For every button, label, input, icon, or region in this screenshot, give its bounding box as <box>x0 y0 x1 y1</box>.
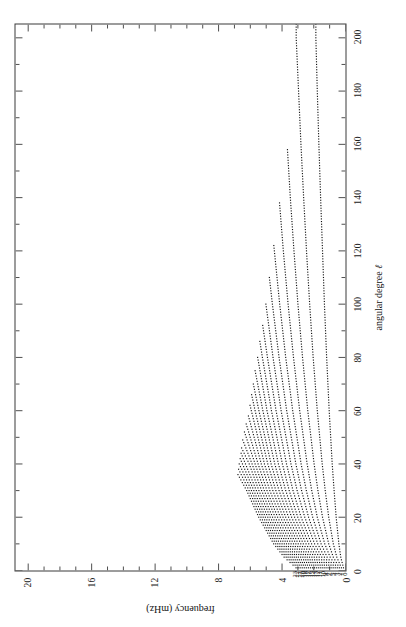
x-tick-label: 60 <box>352 406 362 416</box>
x-tick-label: 160 <box>352 136 362 151</box>
x-tick-label: 0 <box>352 569 362 574</box>
x-tick-label: 80 <box>352 352 362 362</box>
x-tick-label: 180 <box>352 82 362 97</box>
ridge-diagram-figure: 020406080100120140160180200 048121620 01… <box>0 0 406 627</box>
x-tick-label: 200 <box>352 29 362 44</box>
y-tick-label: 4 <box>277 577 287 597</box>
rotated-figure-container: 020406080100120140160180200 048121620 01… <box>0 0 406 627</box>
x-axis-title: angular degree ℓ <box>372 264 383 330</box>
plot-frame <box>14 23 346 571</box>
ridge-label: 23 <box>291 571 298 577</box>
y-tick-label: 20 <box>22 577 32 597</box>
x-tick-label: 40 <box>352 459 362 469</box>
x-tick-label: 120 <box>352 243 362 258</box>
ridge-curves <box>15 24 345 570</box>
x-tick-label: 140 <box>352 189 362 204</box>
x-axis-title-text: angular degree <box>372 271 383 330</box>
x-axis-title-symbol: ℓ <box>372 264 383 268</box>
figure-page: 020406080100120140160180200 048121620 01… <box>0 0 406 627</box>
x-tick-label: 20 <box>352 513 362 523</box>
y-axis-title: frequency (mHz) <box>146 604 215 615</box>
y-tick-label: 8 <box>213 577 223 597</box>
y-tick-label: 16 <box>86 577 96 597</box>
y-tick-label: 12 <box>149 577 159 597</box>
y-tick-label: 0 <box>341 577 351 597</box>
x-tick-label: 100 <box>352 296 362 311</box>
